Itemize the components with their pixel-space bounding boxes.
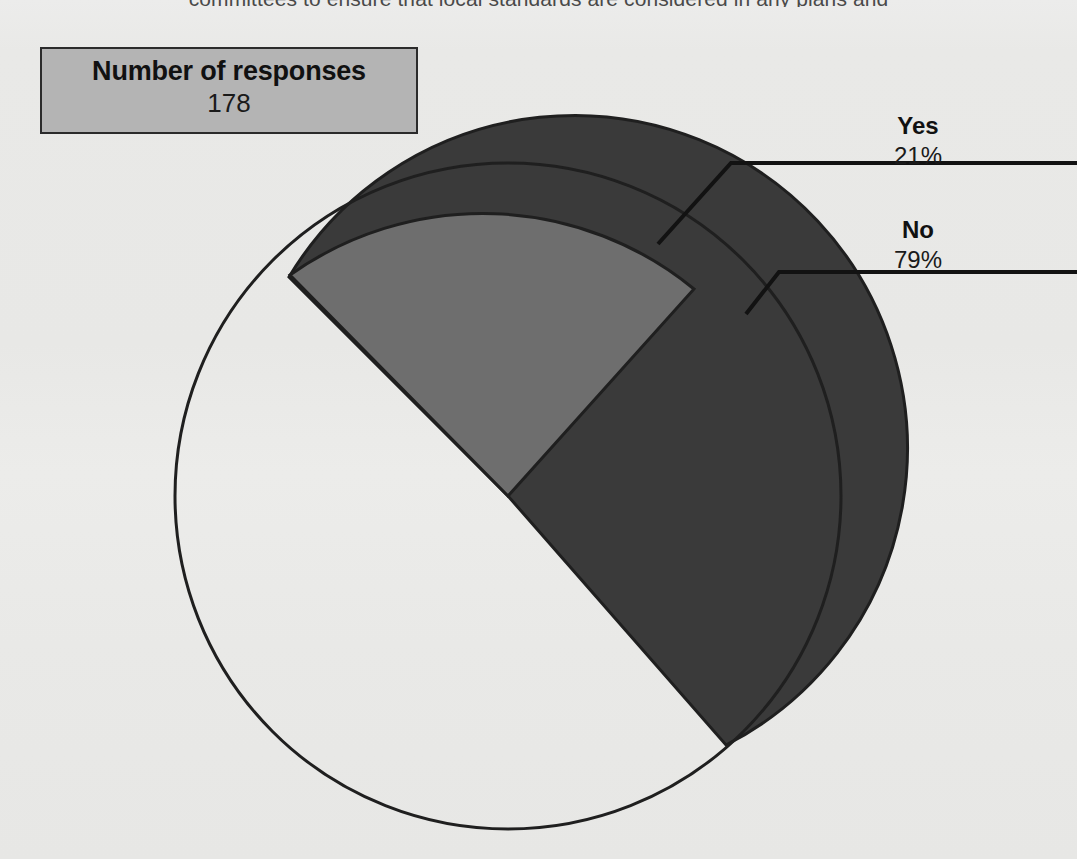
- callout-no: No 79%: [838, 216, 998, 274]
- callout-no-percent: 79%: [838, 246, 998, 275]
- pie-slice-no[interactable]: [289, 115, 907, 745]
- callout-yes-label: Yes: [838, 112, 998, 140]
- callout-no-label: No: [838, 216, 998, 244]
- responses-legend-box: Number of responses 178: [40, 47, 418, 134]
- responses-legend-value: 178: [42, 89, 416, 119]
- callout-yes: Yes 21%: [838, 112, 998, 170]
- callout-yes-percent: 21%: [838, 142, 998, 171]
- responses-legend-title: Number of responses: [42, 55, 416, 88]
- chart-page: committees to ensure that local standard…: [0, 0, 1077, 859]
